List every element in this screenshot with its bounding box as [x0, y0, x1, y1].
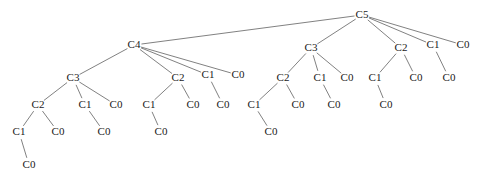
tree-node-label: C0 [410, 71, 423, 83]
tree-node-label: C0 [265, 125, 278, 137]
tree-edge [80, 49, 128, 75]
tree-edge [369, 17, 456, 43]
tree-edge [313, 55, 318, 71]
tree-edge [404, 55, 412, 72]
tree-node-label: C0 [110, 98, 123, 110]
tree-diagram: C5C4C3C2C1C0C3C2C1C0C2C1C0C1C0C0C2C1C0C1… [0, 0, 480, 192]
tree-node-label: C0 [155, 125, 168, 137]
tree-edge [140, 50, 172, 74]
tree-node-label: C0 [380, 98, 393, 110]
tree-edge [141, 16, 354, 44]
tree-edge [141, 47, 231, 73]
tree-node-label: C1 [369, 71, 382, 83]
tree-edge [152, 112, 158, 125]
tree-edge [378, 85, 383, 98]
tree-node-label: C1 [314, 71, 327, 83]
tree-node-label: C5 [356, 8, 369, 20]
tree-edge [76, 85, 82, 98]
tree-edge [317, 19, 355, 44]
tree-node-label: C0 [232, 68, 245, 80]
tree-node-label: C1 [79, 98, 92, 110]
tree-edge [323, 85, 330, 99]
tree-edge [211, 82, 219, 99]
tree-node-label: C0 [341, 71, 354, 83]
tree-edge [141, 48, 201, 72]
tree-node-label: C0 [457, 38, 470, 50]
tree-edge [436, 52, 445, 72]
tree-edges-group [21, 16, 456, 158]
tree-edge [287, 85, 295, 99]
tree-node-label: C0 [443, 71, 456, 83]
tree-node-label: C0 [292, 98, 305, 110]
tree-node-label: C3 [305, 41, 318, 53]
tree-node-label: C4 [128, 38, 141, 50]
tree-edge [259, 83, 277, 100]
tree-node-label: C1 [427, 38, 440, 50]
tree-edge [44, 83, 67, 101]
tree-node-label: C3 [67, 71, 80, 83]
tree-node-label: C2 [277, 71, 290, 83]
tree-node-label: C2 [32, 98, 45, 110]
tree-edge [258, 111, 267, 125]
tree-edge [380, 54, 396, 73]
tree-node-label: C1 [13, 125, 26, 137]
tree-node-label: C0 [98, 125, 111, 137]
tree-node-label: C1 [202, 68, 215, 80]
tree-edge [182, 85, 190, 99]
tree-node-label: C0 [217, 98, 230, 110]
tree-edge [369, 18, 426, 42]
tree-edge [154, 83, 172, 100]
tree-node-label: C0 [187, 98, 200, 110]
tree-node-label: C1 [248, 98, 261, 110]
tree-edge [21, 139, 27, 158]
tree-node-label: C0 [328, 98, 341, 110]
tree-node-label: C2 [172, 71, 185, 83]
tree-edge [288, 53, 306, 72]
tree-node-label: C0 [52, 125, 65, 137]
tree-node-label: C0 [23, 158, 36, 170]
tree-node-label: C1 [143, 98, 156, 110]
tree-node-label: C2 [395, 41, 408, 53]
